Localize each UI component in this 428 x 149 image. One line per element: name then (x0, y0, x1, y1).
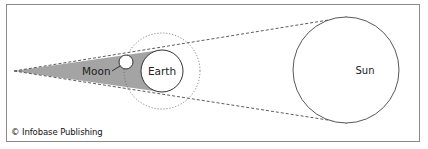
sun-label: Sun (355, 65, 374, 76)
sun-body (293, 17, 399, 123)
earth-label: Earth (148, 65, 176, 77)
moon-body (119, 55, 133, 69)
copyright-credit: © Infobase Publishing (11, 127, 103, 137)
moon-label: Moon (82, 65, 111, 77)
